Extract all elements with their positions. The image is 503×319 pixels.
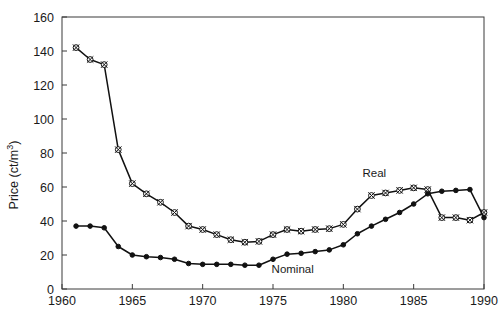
data-point-marker — [229, 262, 234, 267]
series-real — [73, 44, 487, 245]
series-nominal — [74, 187, 487, 267]
data-point-marker — [74, 224, 79, 229]
data-point-marker — [130, 253, 135, 258]
data-point-marker — [425, 192, 430, 197]
data-point-marker — [285, 252, 290, 257]
data-point-marker — [200, 262, 205, 267]
data-point-marker — [257, 263, 262, 268]
data-point-marker — [144, 254, 149, 259]
data-point-marker — [454, 188, 459, 193]
x-tick-label: 1960 — [48, 294, 76, 308]
y-tick-label: 40 — [40, 215, 54, 229]
y-tick-label: 60 — [40, 181, 54, 195]
x-tick-label: 1975 — [259, 294, 287, 308]
x-tick-label: 1990 — [470, 294, 498, 308]
data-point-marker — [327, 248, 332, 253]
x-axis: 1960196519701975198019851990 — [48, 284, 498, 308]
y-axis-title-base: Price (ct/m — [7, 150, 21, 210]
chart-figure: 020406080100120140160 196019651970197519… — [0, 0, 503, 319]
data-point-marker — [369, 224, 374, 229]
series-label-nominal: Nominal — [272, 263, 314, 275]
data-point-marker — [243, 263, 248, 268]
data-point-marker — [468, 187, 473, 192]
data-point-marker — [313, 249, 318, 254]
series-label-real: Real — [362, 167, 386, 179]
x-tick-label: 1980 — [329, 294, 357, 308]
price-line-chart: 020406080100120140160 196019651970197519… — [0, 0, 503, 319]
y-tick-label: 140 — [33, 45, 54, 59]
y-axis-title-close: ) — [7, 141, 21, 145]
y-axis-title: Price (ct/m3) — [5, 141, 21, 210]
data-series-group — [73, 44, 487, 267]
series-line-real — [76, 48, 484, 243]
data-point-marker — [299, 251, 304, 256]
data-point-marker — [355, 231, 360, 236]
data-point-marker — [271, 257, 276, 262]
y-tick-label: 80 — [40, 147, 54, 161]
data-point-marker — [341, 243, 346, 248]
y-tick-label: 160 — [33, 11, 54, 25]
data-point-marker — [397, 210, 402, 215]
data-point-marker — [214, 262, 219, 267]
plot-frame — [62, 17, 484, 289]
data-point-marker — [158, 255, 163, 260]
data-point-marker — [482, 215, 487, 220]
data-point-marker — [88, 224, 93, 229]
y-tick-label: 100 — [33, 113, 54, 127]
x-tick-label: 1965 — [118, 294, 146, 308]
data-point-marker — [116, 244, 121, 249]
data-point-marker — [186, 261, 191, 266]
series-line-nominal — [76, 190, 484, 266]
series-annotations: RealNominal — [272, 167, 387, 275]
data-point-marker — [411, 202, 416, 207]
x-tick-label: 1985 — [400, 294, 428, 308]
x-tick-label: 1970 — [189, 294, 217, 308]
data-point-marker — [172, 257, 177, 262]
data-point-marker — [440, 189, 445, 194]
data-point-marker — [102, 226, 107, 231]
y-tick-label: 120 — [33, 79, 54, 93]
y-tick-label: 20 — [40, 249, 54, 263]
data-point-marker — [383, 217, 388, 222]
y-axis-title-text: Price (ct/m3) — [5, 141, 21, 210]
